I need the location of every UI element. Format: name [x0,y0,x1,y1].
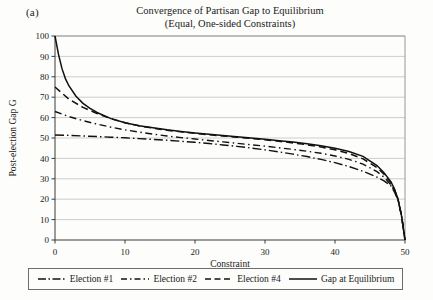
y-tick-label: 0 [45,235,50,245]
y-tick-label: 60 [40,113,50,123]
y-tick-label: 80 [40,72,50,82]
figure-container: (a) Convergence of Partisan Gap to Equil… [0,0,433,300]
x-tick-label: 10 [121,247,131,257]
x-tick-label: 20 [191,247,201,257]
legend-line-sample [120,274,150,284]
legend-item[interactable]: Gap at Equilibrium [288,274,394,284]
chart-legend: Election #1Election #2Election #4Gap at … [28,268,403,290]
legend-line-sample [204,274,234,284]
series-line-election-1 [55,135,405,240]
y-tick-label: 70 [40,92,50,102]
y-tick-label: 100 [36,31,50,41]
x-tick-label: 40 [331,247,341,257]
y-tick-label: 20 [40,194,50,204]
legend-item-label: Election #2 [153,274,197,284]
legend-item-label: Gap at Equilibrium [321,274,394,284]
y-tick-label: 10 [40,215,50,225]
series-line-election-2 [55,111,405,240]
legend-item[interactable]: Election #1 [37,274,114,284]
legend-item[interactable]: Election #4 [204,274,281,284]
legend-line-sample [37,274,67,284]
y-tick-label: 90 [40,52,50,62]
y-tick-label: 30 [40,174,50,184]
y-tick-label: 50 [40,133,50,143]
chart-plot-area: 010203040506070809010001020304050Constra… [0,0,433,300]
y-axis-title: Post-election Gap G [8,99,18,176]
x-tick-label: 0 [53,247,58,257]
series-line-election-4 [55,87,405,240]
legend-item[interactable]: Election #2 [120,274,197,284]
x-tick-label: 30 [261,247,271,257]
y-tick-label: 40 [40,154,50,164]
legend-line-sample [288,274,318,284]
x-tick-label: 50 [401,247,411,257]
legend-item-label: Election #4 [237,274,281,284]
legend-item-label: Election #1 [70,274,114,284]
